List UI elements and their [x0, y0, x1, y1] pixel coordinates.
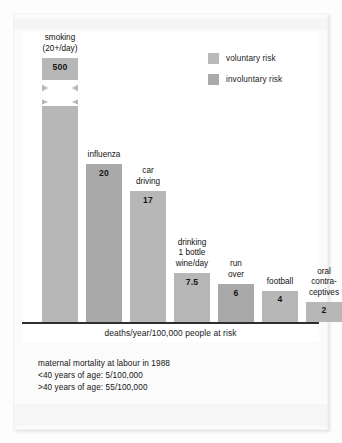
bar-label-run-over-line2: over: [228, 270, 244, 281]
bar-label-car-line2: driving: [136, 177, 160, 188]
bar-value-influenza: 20: [86, 168, 122, 178]
bar-label-wine: drinking 1 bottle wine/day: [176, 238, 208, 270]
bar-label-wine-line1: drinking: [176, 238, 208, 249]
bar-value-smoking: 500: [42, 62, 78, 72]
bar-label-influenza: influenza: [88, 150, 121, 161]
bar-group-wine: 7.5 drinking 1 bottle wine/day: [174, 273, 210, 322]
bar-label-car-line1: car: [136, 166, 160, 177]
bar-label-smoking-line2: (20+/day): [43, 44, 78, 55]
bar-value-oral-contraceptives: 2: [306, 305, 342, 315]
bar-label-pill-line2: contra-: [309, 277, 339, 288]
bar-car-driving: [130, 191, 166, 322]
bar-value-wine: 7.5: [174, 277, 210, 287]
x-axis-caption: deaths/year/100,000 people at risk: [22, 328, 319, 338]
bar-value-car-driving: 17: [130, 195, 166, 205]
bar-group-car-driving: 17 car driving: [130, 191, 166, 322]
bar-label-smoking-line1: smoking: [43, 33, 78, 44]
plot-area: 500 smoking (20+/day) 20 influenza: [22, 32, 319, 322]
bar-label-smoking: smoking (20+/day): [43, 33, 78, 54]
footnote-line-1: maternal mortality at labour in 1988: [38, 358, 288, 370]
bar-label-wine-line2: 1 bottle: [176, 248, 208, 259]
bar-label-oral-contraceptives: oral contra- ceptives: [309, 267, 339, 299]
bar-label-run-over: run over: [228, 259, 244, 280]
bar-value-football: 4: [262, 294, 298, 304]
chart-panel: voluntary risk involuntary risk 500: [22, 32, 319, 342]
bar-group-oral-contraceptives: 2 oral contra- ceptives: [306, 302, 342, 322]
bar-label-influenza-line1: influenza: [88, 150, 121, 161]
bar-label-football: football: [267, 277, 293, 288]
footnote-line-2: <40 years of age: 5/100,000: [38, 370, 288, 382]
bar-label-football-line1: football: [267, 277, 293, 288]
footnote-block: maternal mortality at labour in 1988 <40…: [38, 358, 288, 395]
bar-smoking: [42, 58, 78, 322]
bar-label-pill-line3: ceptives: [309, 288, 339, 299]
footnote-line-3: >40 years of age: 55/100,000: [38, 382, 288, 394]
bar-group-football: 4 football: [262, 291, 298, 322]
bar-label-car-driving: car driving: [136, 166, 160, 187]
bar-group-run-over: 6 run over: [218, 284, 254, 322]
bar-value-run-over: 6: [218, 288, 254, 298]
bar-group-smoking: 500 smoking (20+/day): [42, 58, 78, 322]
bar-group-influenza: 20 influenza: [86, 164, 122, 322]
x-axis-baseline: [22, 322, 319, 324]
bar-label-wine-line3: wine/day: [176, 259, 208, 270]
bar-label-run-over-line1: run: [228, 259, 244, 270]
bar-label-pill-line1: oral: [309, 267, 339, 278]
bar-influenza: [86, 164, 122, 322]
